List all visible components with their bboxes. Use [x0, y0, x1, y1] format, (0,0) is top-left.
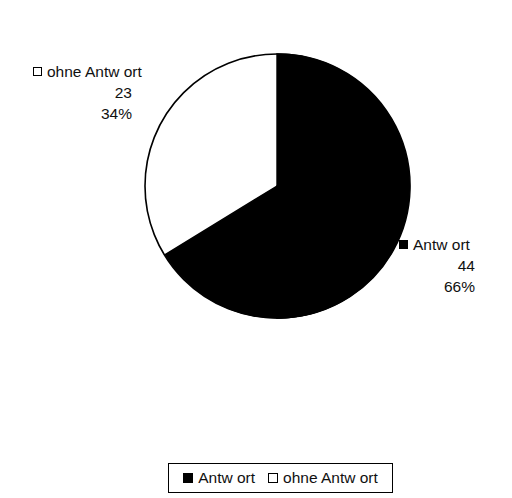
- data-label-ohne-antwort-head: ohne Antw ort: [33, 61, 175, 82]
- pie-slice-antwort: [165, 54, 410, 318]
- data-label-ohne-antwort: ohne Antw ort 23 34%: [33, 61, 175, 124]
- data-label-antwort-value: 44: [399, 255, 491, 276]
- hollow-square-icon: [33, 67, 42, 76]
- data-label-antwort-head: Antw ort: [399, 234, 491, 255]
- filled-square-icon: [183, 473, 193, 483]
- hollow-square-icon: [268, 473, 278, 483]
- legend-item-ohne-antwort[interactable]: ohne Antw ort: [268, 469, 378, 487]
- legend-item-antwort-label: Antw ort: [198, 469, 255, 487]
- data-label-antwort: Antw ort 44 66%: [399, 234, 491, 297]
- data-label-antwort-name: Antw ort: [413, 236, 470, 253]
- data-label-antwort-percent: 66%: [399, 276, 491, 297]
- filled-square-icon: [399, 240, 408, 249]
- data-label-ohne-antwort-percent: 34%: [33, 103, 175, 124]
- data-label-ohne-antwort-value: 23: [33, 82, 175, 103]
- chart-legend: Antw ort ohne Antw ort: [168, 463, 393, 493]
- data-label-ohne-antwort-name: ohne Antw ort: [47, 63, 142, 80]
- legend-item-ohne-antwort-label: ohne Antw ort: [283, 469, 378, 487]
- pie-chart-figure: ohne Antw ort 23 34% Antw ort 44 66% Ant…: [0, 0, 512, 498]
- legend-item-antwort[interactable]: Antw ort: [183, 469, 255, 487]
